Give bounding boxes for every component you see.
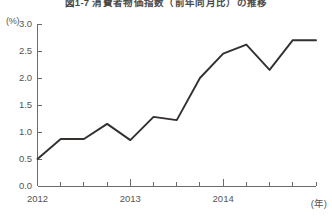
x-axis-ticks — [38, 179, 317, 186]
data-series-line — [38, 40, 317, 159]
line-chart-plot — [0, 0, 332, 218]
chart-figure: 図1-7 消費者物価指数（前年同月比）の推移 (%) (年) 0.00.51.0… — [0, 0, 332, 218]
y-axis-ticks — [38, 24, 42, 186]
axis-group — [38, 24, 317, 186]
